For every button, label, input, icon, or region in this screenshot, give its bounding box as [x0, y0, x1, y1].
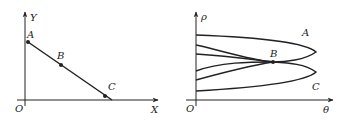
intersection-point-b: [271, 60, 275, 64]
right-curve-c-label: C: [312, 81, 320, 92]
left-point-b-label: B: [56, 50, 64, 61]
right-theta-axis-label: θ: [323, 104, 329, 115]
left-point-a-label: A: [26, 29, 34, 40]
right-origin-label: O: [186, 103, 194, 114]
left-origin-label: O: [15, 103, 23, 114]
left-x-axis-label: X: [150, 104, 159, 115]
right-curve-a-label: A: [301, 27, 309, 38]
left-y-axis-label: Y: [30, 12, 38, 23]
point-a: [26, 40, 30, 44]
left-panel-xy-plot: Y A B C O X: [15, 12, 159, 115]
curve-c: [196, 45, 316, 91]
right-panel-rho-theta-plot: ρ A B C O θ: [186, 11, 333, 115]
right-point-b-label: B: [269, 48, 277, 59]
point-c: [103, 94, 107, 98]
right-rho-axis-label: ρ: [200, 11, 207, 22]
line-abc: [28, 42, 112, 100]
left-point-c-label: C: [108, 81, 116, 92]
point-b: [59, 63, 63, 67]
curve-b-lower: [196, 62, 273, 80]
diagram-canvas: Y A B C O X ρ A B C O θ: [0, 0, 343, 120]
